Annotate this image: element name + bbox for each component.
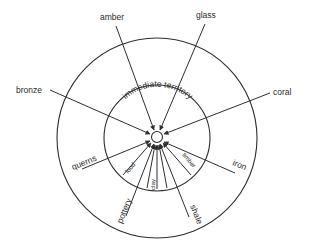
glass-arrow: [160, 24, 205, 130]
label-bronze: bronze: [16, 85, 42, 95]
iron-arrow: [164, 142, 235, 173]
label-querns: querns: [70, 153, 98, 172]
label-shale: shale: [188, 203, 205, 226]
label-pottery: pottery: [115, 196, 134, 225]
settlement-center: [152, 132, 163, 143]
label-food: food: [123, 160, 136, 174]
outer-resource-arrows: [50, 24, 270, 217]
outer-ring: [57, 38, 257, 238]
bronze-arrow: [50, 90, 150, 134]
immediate-territory-label: immediate territory: [120, 79, 195, 102]
resource-catchment-diagram: immediate territory amber glass bronze c…: [0, 0, 309, 251]
label-amber: amber: [100, 12, 124, 22]
label-clay: clay: [149, 178, 156, 190]
label-coral: coral: [273, 87, 292, 97]
label-glass: glass: [196, 10, 216, 20]
label-iron: iron: [231, 158, 248, 173]
amber-arrow: [116, 26, 154, 130]
